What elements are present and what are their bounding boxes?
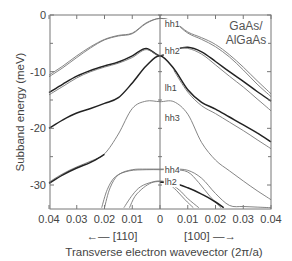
band-curve-hh4b	[102, 170, 221, 208]
band-curve-lh1b	[174, 71, 271, 149]
x-tick-label: 0.03	[66, 213, 87, 225]
x-tick-label: 0.03	[233, 213, 254, 225]
band-label-hh2: hh2	[165, 46, 180, 56]
y-tick-label: -30	[30, 179, 46, 191]
y-tick-labels: 0-10-20-30	[30, 9, 46, 191]
band-label-hh1: hh1	[165, 19, 180, 29]
direction-100-label: [100] —→	[184, 230, 236, 242]
y-tick-label: -20	[30, 122, 46, 134]
band-label-hh3: hh3	[165, 113, 180, 123]
x-tick-label: 0.01	[177, 213, 198, 225]
band-curve-hh3b	[49, 154, 105, 183]
y-tick-label: 0	[40, 9, 46, 21]
band-label-lh2: lh2	[165, 177, 177, 187]
material-label-line1: GaAs/	[229, 19, 263, 33]
x-tick-labels: 0.040.030.020.0100.010.020.030.04	[38, 213, 281, 225]
x-tick-label: 0.02	[205, 213, 226, 225]
band-label-hh4: hh4	[165, 165, 180, 175]
x-tick-label: 0.02	[94, 213, 115, 225]
x-tick-label: 0	[157, 213, 163, 225]
y-tick-label: -10	[30, 66, 46, 78]
material-label-line2: AlGaAs	[226, 33, 267, 47]
x-tick-label: 0.04	[260, 213, 281, 225]
band-label-lh1: lh1	[165, 83, 177, 93]
y-axis-title: Subband energy (meV)	[14, 52, 26, 171]
x-axis-title: Transverse electron wavevector (2π/a)	[65, 246, 263, 258]
x-tick-label: 0.01	[122, 213, 143, 225]
subband-energy-chart: 0-10-20-30 0.040.030.020.0100.010.020.03…	[0, 0, 292, 261]
direction-110-label: ←— [110]	[87, 230, 138, 242]
x-tick-label: 0.04	[38, 213, 59, 225]
